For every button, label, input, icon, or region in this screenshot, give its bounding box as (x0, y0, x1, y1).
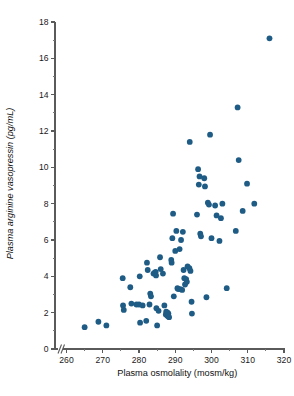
data-point (233, 228, 239, 234)
data-point (236, 157, 242, 163)
data-point (195, 166, 201, 172)
y-tick-label: 18 (39, 17, 49, 27)
axes (51, 22, 285, 354)
data-point (180, 229, 186, 235)
data-point (166, 314, 172, 320)
y-tick-label: 8 (44, 199, 49, 209)
data-point (224, 285, 230, 291)
data-point (170, 211, 176, 217)
data-point (189, 311, 195, 317)
x-tick-label: 320 (277, 355, 292, 365)
data-point (143, 318, 149, 324)
axis-labels: 024681012141618260270280290300310320Plas… (5, 17, 291, 378)
data-point (144, 260, 150, 266)
data-point (179, 287, 185, 293)
data-point (137, 320, 143, 326)
y-tick-label: 16 (39, 53, 49, 63)
data-point (196, 182, 202, 188)
y-tick-label: 2 (44, 308, 49, 318)
data-point (187, 139, 193, 145)
data-point (202, 184, 208, 190)
data-point (173, 228, 179, 234)
plot-canvas: 024681012141618260270280290300310320Plas… (0, 0, 294, 396)
data-point (217, 238, 223, 244)
data-point (148, 293, 154, 299)
data-point (218, 215, 224, 221)
y-tick-label: 4 (44, 271, 49, 281)
data-point (184, 279, 190, 285)
data-point (145, 267, 151, 273)
data-point (204, 294, 210, 300)
data-point (127, 284, 133, 290)
data-point (251, 201, 257, 207)
data-point (169, 235, 175, 241)
y-tick-label: 14 (39, 90, 49, 100)
data-point (82, 324, 88, 330)
data-point (206, 202, 212, 208)
data-point (154, 322, 160, 328)
data-point (156, 308, 162, 314)
x-tick-label: 280 (132, 355, 147, 365)
y-tick-label: 0 (44, 344, 49, 354)
data-point (103, 322, 109, 328)
data-point (188, 268, 194, 274)
y-tick-label: 10 (39, 162, 49, 172)
data-point (157, 254, 163, 260)
data-point (219, 201, 225, 207)
x-tick-label: 270 (96, 355, 111, 365)
data-point (244, 181, 250, 187)
x-tick-label: 300 (204, 355, 219, 365)
scatter-plot-figure: 024681012141618260270280290300310320Plas… (0, 0, 294, 396)
data-point (207, 132, 213, 138)
data-point (212, 203, 218, 209)
data-points (82, 35, 273, 330)
data-point (147, 302, 153, 308)
data-point (160, 271, 166, 277)
data-point (209, 235, 215, 241)
y-tick-label: 6 (44, 235, 49, 245)
x-tick-label: 260 (59, 355, 74, 365)
x-tick-label: 290 (168, 355, 183, 365)
data-point (177, 246, 183, 252)
data-point (153, 273, 159, 279)
data-point (169, 260, 175, 266)
data-point (201, 175, 207, 181)
data-point (120, 275, 126, 281)
data-point (235, 104, 241, 110)
data-point (96, 319, 102, 325)
data-point (178, 237, 184, 243)
y-tick-label: 12 (39, 126, 49, 136)
x-tick-label: 310 (241, 355, 256, 365)
data-point (121, 307, 127, 313)
data-point (140, 303, 146, 309)
data-point (194, 212, 200, 218)
x-axis-title: Plasma osmolality (mosm/kg) (117, 368, 237, 378)
data-point (267, 35, 273, 41)
y-axis-title: Plasma arginine vasopressin (pg/mL) (5, 108, 15, 260)
data-point (137, 273, 143, 279)
data-point (161, 303, 167, 309)
data-point (171, 293, 177, 299)
data-point (128, 301, 134, 307)
data-point (189, 299, 195, 305)
data-point (198, 233, 204, 239)
data-point (240, 208, 246, 214)
